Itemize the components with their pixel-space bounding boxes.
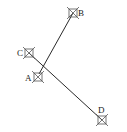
point-c-label: C (17, 48, 23, 58)
geometry-diagram: A B C D (0, 0, 127, 132)
segment-ba (39, 13, 73, 74)
point-d-label: D (98, 105, 105, 115)
point-a-label: A (25, 73, 32, 83)
segment-cd (29, 53, 102, 120)
point-c-marker-icon (23, 47, 35, 59)
point-b-label: B (78, 8, 84, 18)
point-a-marker-icon (32, 71, 44, 83)
point-d-marker-icon (96, 114, 108, 126)
